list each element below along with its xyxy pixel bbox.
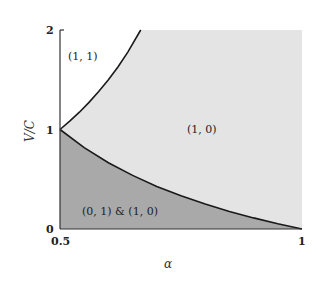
x-axis-label: α xyxy=(164,257,172,271)
y-tick-label-2: 2 xyxy=(46,24,54,37)
region-label-0-1-and-1-0: (0, 1) & (1, 0) xyxy=(82,205,158,218)
region-label-1-1: (1, 1) xyxy=(68,50,98,63)
phase-diagram-chart: 2 1 0 0.5 1 α V/C (1, 1) (1, 0) (0, 1) &… xyxy=(0,0,318,282)
y-tick-label-1: 1 xyxy=(46,124,54,137)
x-tick-label-0-5: 0.5 xyxy=(51,235,70,248)
x-tick-label-1: 1 xyxy=(298,235,306,248)
y-axis-label: V/C xyxy=(23,120,37,142)
region-label-1-0: (1, 0) xyxy=(187,123,217,136)
